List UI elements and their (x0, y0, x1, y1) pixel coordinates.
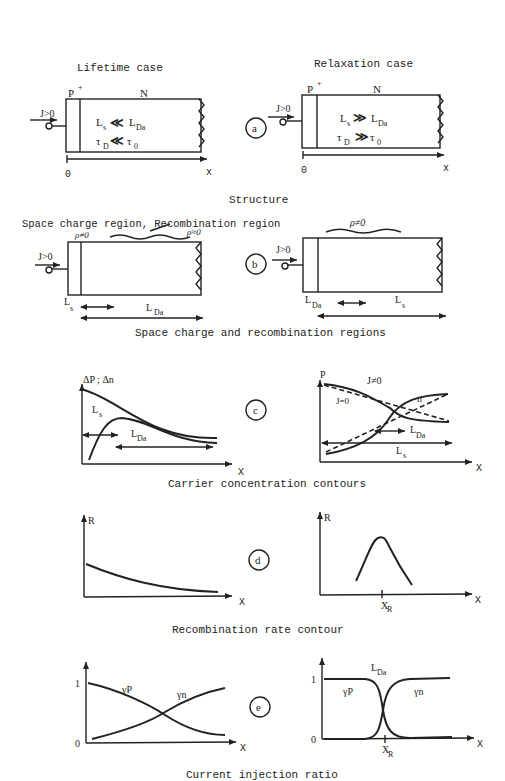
svg-text:e: e (256, 701, 261, 713)
svg-text:τ: τ (337, 131, 342, 143)
svg-text:J=0: J=0 (336, 396, 350, 406)
svg-text:L: L (371, 112, 378, 124)
panel-e-relaxation-chart: 1 0 L Da γP γn X R X (311, 658, 483, 759)
svg-text:≫: ≫ (355, 129, 369, 144)
svg-text:s: s (70, 304, 73, 313)
badge-b: b (246, 254, 266, 274)
p-plus-label: P (68, 87, 74, 99)
svg-text:P: P (320, 369, 326, 380)
caption-carrier: Carrier concentration contours (168, 478, 366, 490)
svg-text:X: X (239, 597, 245, 608)
svg-text:0: 0 (301, 165, 307, 176)
svg-text:R: R (88, 515, 95, 526)
svg-text:P: P (307, 83, 313, 95)
svg-text:s: s (103, 123, 106, 132)
svg-text:γn: γn (413, 686, 423, 697)
svg-text:R: R (324, 512, 331, 523)
panel-a-lifetime: Lifetime case P + N J>0 L s ≪ L Da τ D ≪… (30, 62, 212, 180)
relaxation-title: Relaxation case (314, 58, 413, 70)
svg-text:0: 0 (311, 734, 316, 745)
svg-text:1: 1 (311, 674, 316, 685)
delta-p-curve (84, 390, 217, 438)
svg-text:Da: Da (137, 434, 147, 443)
ls-symbol: L (96, 116, 103, 128)
svg-text:γP: γP (342, 686, 353, 697)
svg-text:b: b (252, 258, 258, 270)
panel-e-lifetime-chart: 1 0 γP γn X (75, 662, 246, 754)
badge-a: a (246, 118, 266, 138)
svg-text:X: X (475, 595, 481, 606)
r-peak-curve (356, 537, 412, 585)
figure-canvas: Lifetime case P + N J>0 L s ≪ L Da τ D ≪… (0, 0, 505, 781)
svg-text:X: X (240, 743, 246, 754)
svg-text:s: s (402, 301, 405, 310)
svg-text:a: a (252, 122, 257, 134)
svg-text:Da: Da (378, 119, 388, 128)
panel-d-relaxation-chart: R X R X (320, 512, 481, 614)
svg-text:ρ≠0: ρ≠0 (349, 217, 365, 228)
lda-symbol: L (129, 116, 136, 128)
svg-text:s: s (347, 119, 350, 128)
svg-text:D: D (103, 142, 109, 151)
panel-c-lifetime-chart: ΔP ; Δn L s L Da X (82, 374, 244, 478)
svg-text:s: s (99, 410, 102, 419)
svg-text:Da: Da (416, 431, 426, 440)
svg-text:X: X (477, 739, 483, 750)
svg-text:+: + (317, 79, 322, 88)
svg-text:J>0: J>0 (276, 103, 291, 114)
y-axis-label: ΔP ; Δn (83, 374, 114, 385)
badge-c: c (246, 400, 266, 420)
tau-0-symbol: τ (127, 135, 132, 147)
much-greater-symbol: ≫ (353, 110, 367, 125)
svg-text:d: d (255, 554, 261, 566)
caption-recombination: Recombination rate contour (172, 624, 344, 636)
svg-text:L: L (396, 445, 402, 456)
svg-text:R: R (387, 605, 393, 614)
panel-b-relaxation: ρ≠0 J>0 L Da L s (272, 217, 446, 316)
caption-injection: Current injection ratio (186, 769, 338, 781)
gamma-p-curve (88, 683, 225, 735)
svg-text:Da: Da (136, 123, 146, 132)
svg-text:X: X (238, 467, 244, 478)
svg-text:L: L (340, 112, 347, 124)
svg-text:Da: Da (154, 308, 164, 317)
n-label: N (140, 87, 148, 99)
origin-label: 0 (65, 169, 71, 180)
rho-nonzero-label: ρ≠0 (74, 230, 89, 240)
region-header: Space charge region, Recombination regio… (22, 218, 280, 230)
svg-text:0: 0 (75, 738, 80, 749)
svg-text:J≠0: J≠0 (367, 375, 381, 386)
svg-text:≪: ≪ (110, 133, 124, 148)
panel-b-lifetime: Space charge region, Recombination regio… (22, 218, 280, 318)
svg-text:Da: Da (312, 301, 322, 310)
svg-text:s: s (403, 451, 406, 460)
p-plus-sup: + (78, 83, 83, 92)
svg-text:0: 0 (377, 138, 381, 147)
x-axis-label: x (206, 167, 212, 178)
caption-space-charge: Space charge and recombination regions (135, 327, 386, 339)
svg-text:J>0: J>0 (276, 244, 291, 255)
svg-text:N: N (373, 83, 381, 95)
svg-text:R: R (388, 750, 394, 759)
tau-d-symbol: τ (96, 135, 101, 147)
panel-c-relaxation-chart: P J≠0 J=0 n L Da L s X (320, 369, 482, 474)
gamma-n-curve (92, 688, 225, 739)
svg-text:L: L (92, 404, 98, 415)
svg-text:τ: τ (370, 131, 375, 143)
svg-text:L: L (395, 294, 401, 305)
svg-text:1: 1 (75, 678, 80, 689)
svg-text:x: x (443, 163, 449, 174)
svg-text:D: D (344, 138, 350, 147)
svg-text:c: c (253, 404, 258, 416)
panel-a-relaxation: Relaxation case P + N J>0 L s ≫ L Da τ D… (268, 58, 449, 176)
svg-text:γP: γP (121, 684, 132, 695)
svg-text:γn: γn (176, 689, 186, 700)
current-label: J>0 (40, 108, 55, 119)
badge-e: e (250, 697, 270, 717)
svg-text:J>0: J>0 (38, 251, 53, 262)
caption-structure: Structure (229, 194, 288, 206)
svg-text:L: L (305, 294, 311, 305)
svg-text:X: X (476, 463, 482, 474)
svg-text:Da: Da (377, 668, 387, 677)
svg-text:L: L (146, 302, 152, 313)
